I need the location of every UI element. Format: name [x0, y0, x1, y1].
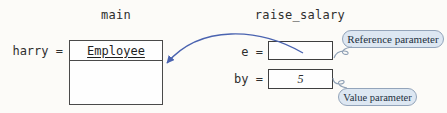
raise-salary-frame-title: raise_salary — [251, 8, 349, 22]
employee-class-header: Employee — [70, 41, 162, 61]
main-frame-title: main — [69, 8, 163, 22]
value-parameter-callout-text: Value parameter — [343, 92, 412, 103]
reference-parameter-callout-text: Reference parameter — [347, 33, 438, 45]
employee-object-box: Employee — [69, 40, 163, 105]
reference-callout-tail-squiggle — [334, 47, 352, 58]
param-by-label: by = — [200, 72, 263, 86]
param-e-label: e = — [200, 45, 263, 59]
employee-class-name: Employee — [87, 44, 145, 58]
employee-object-body — [70, 61, 162, 104]
param-by-value: 5 — [298, 72, 304, 87]
harry-variable-label: harry = — [0, 44, 63, 58]
param-by-box: 5 — [268, 69, 333, 89]
value-parameter-callout: Value parameter — [338, 88, 417, 106]
reference-parameter-callout: Reference parameter — [342, 30, 444, 48]
memory-diagram: main raise_salary harry = Employee e = b… — [0, 0, 447, 113]
value-callout-tail-squiggle — [333, 78, 347, 88]
param-e-box — [268, 41, 333, 60]
